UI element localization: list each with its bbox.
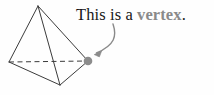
edge-apex-left	[9, 6, 38, 62]
tetrahedron-hidden-edges	[9, 61, 88, 62]
vertex-dot	[84, 57, 93, 66]
edge-bottom-right	[60, 61, 88, 85]
annotation-arrow	[94, 24, 115, 57]
caption-period: .	[182, 5, 186, 24]
caption-lead: This is a	[76, 5, 137, 24]
caption-text: This is a vertex.	[76, 5, 214, 27]
figure-container: This is a vertex.	[0, 0, 214, 95]
edge-left-bottom	[9, 62, 60, 85]
arrow-curve	[97, 24, 115, 53]
edge-left-right-dashed	[9, 61, 88, 62]
caption-highlight-term: vertex	[137, 5, 182, 24]
